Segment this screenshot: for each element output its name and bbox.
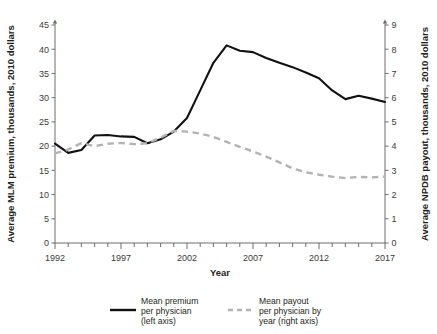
legend-label: per physician [141,306,192,316]
x-tick-label: 2007 [243,253,263,263]
legend-label: Mean premium [141,296,198,306]
chart-figure: 051015202530354045 0123456789 1992199720… [0,0,437,334]
legend-label: Mean payout [259,296,309,306]
x-tick-label: 1997 [111,253,131,263]
x-tick-label: 2017 [375,253,395,263]
left-tick-label: 10 [39,190,49,200]
right-tick-label: 2 [392,190,397,200]
x-tick-label: 2002 [177,253,197,263]
right-axis-title: Average NPDB payout, thousands, 2010 dol… [419,27,430,241]
x-axis-title: Year [210,267,230,278]
right-tick-label: 8 [392,45,397,55]
right-tick-label: 7 [392,69,397,79]
left-tick-label: 40 [39,45,49,55]
left-tick-label: 15 [39,166,49,176]
legend-label: year (right axis) [259,316,318,326]
left-tick-label: 30 [39,93,49,103]
right-tick-label: 3 [392,166,397,176]
right-tick-label: 0 [392,238,397,248]
right-tick-label: 6 [392,93,397,103]
chart-background [0,0,437,334]
right-tick-label: 9 [392,20,397,30]
right-tick-label: 5 [392,117,397,127]
x-tick-label: 2012 [309,253,329,263]
right-tick-label: 4 [392,141,397,151]
legend-label: (left axis) [141,316,176,326]
dual-axis-line-chart: 051015202530354045 0123456789 1992199720… [0,0,437,334]
left-tick-label: 35 [39,69,49,79]
left-tick-label: 20 [39,141,49,151]
left-tick-label: 45 [39,20,49,30]
left-tick-label: 25 [39,117,49,127]
x-tick-label: 1992 [45,253,65,263]
right-tick-label: 1 [392,214,397,224]
left-tick-label: 5 [44,214,49,224]
left-tick-label: 0 [44,238,49,248]
left-axis-title: Average MLM premium, thousands, 2010 dol… [5,25,16,243]
legend-label: per physician by [259,306,322,316]
